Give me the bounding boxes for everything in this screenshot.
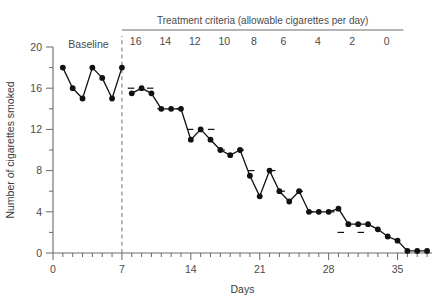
data-point bbox=[424, 248, 430, 254]
criteria-value-label: 10 bbox=[218, 35, 230, 47]
data-series-lines bbox=[63, 68, 427, 251]
data-point bbox=[188, 137, 194, 143]
criteria-label-group: 1614121086420 bbox=[130, 35, 390, 47]
data-point bbox=[109, 96, 115, 102]
x-tick-label: 35 bbox=[392, 263, 404, 275]
data-point bbox=[355, 221, 361, 227]
criteria-value-label: 14 bbox=[159, 35, 171, 47]
x-axis-tick-labels: 0714212835 bbox=[50, 263, 403, 275]
data-series-points bbox=[60, 65, 430, 254]
y-tick-label: 0 bbox=[36, 247, 42, 259]
data-point bbox=[89, 65, 95, 71]
x-tick-label: 14 bbox=[185, 263, 197, 275]
criteria-value-label: 2 bbox=[349, 35, 355, 47]
data-point bbox=[286, 199, 292, 205]
criteria-value-label: 12 bbox=[189, 35, 201, 47]
data-point bbox=[158, 106, 164, 112]
criteria-value-label: 8 bbox=[251, 35, 257, 47]
phase-header-group: Treatment criteria (allowable cigarettes… bbox=[122, 15, 404, 30]
data-point bbox=[395, 238, 401, 244]
data-point bbox=[119, 65, 125, 71]
data-point bbox=[80, 96, 86, 102]
data-point bbox=[198, 126, 204, 132]
data-point bbox=[277, 188, 283, 194]
x-tick-label: 21 bbox=[254, 263, 266, 275]
data-point bbox=[237, 147, 243, 153]
data-point bbox=[247, 173, 253, 179]
data-point bbox=[365, 221, 371, 227]
x-tick-label: 7 bbox=[119, 263, 125, 275]
x-tick-label: 0 bbox=[50, 263, 56, 275]
phase-header-label: Treatment criteria (allowable cigarettes… bbox=[157, 15, 368, 26]
data-point bbox=[178, 106, 184, 112]
y-tick-label: 12 bbox=[30, 123, 42, 135]
data-point bbox=[375, 226, 381, 232]
x-axis-ticks bbox=[53, 253, 427, 260]
data-point bbox=[227, 152, 233, 158]
y-tick-label: 20 bbox=[30, 41, 42, 53]
data-point bbox=[326, 209, 332, 215]
criteria-value-label: 6 bbox=[280, 35, 286, 47]
chart-figure: Treatment criteria (allowable cigarettes… bbox=[0, 0, 443, 300]
baseline-phase-label: Baseline bbox=[68, 38, 108, 50]
data-point bbox=[296, 188, 302, 194]
data-point bbox=[70, 85, 76, 91]
y-tick-label: 8 bbox=[36, 164, 42, 176]
data-point bbox=[267, 168, 273, 174]
data-point bbox=[60, 65, 66, 71]
data-point bbox=[149, 90, 155, 96]
y-axis-title: Number of cigarettes smoked bbox=[4, 81, 16, 218]
cigarette-reduction-line-chart: Treatment criteria (allowable cigarettes… bbox=[0, 0, 443, 300]
data-point bbox=[257, 193, 263, 199]
data-point bbox=[404, 248, 410, 254]
x-axis-title: Days bbox=[231, 283, 255, 295]
criteria-value-label: 0 bbox=[384, 35, 390, 47]
data-point bbox=[129, 90, 135, 96]
criteria-value-label: 16 bbox=[130, 35, 142, 47]
data-point bbox=[99, 75, 105, 81]
data-point bbox=[139, 85, 145, 91]
y-tick-label: 16 bbox=[30, 82, 42, 94]
axes-group: 0714212835 048121620 bbox=[30, 41, 432, 275]
y-axis-ticks bbox=[46, 47, 53, 253]
data-point bbox=[208, 137, 214, 143]
criteria-value-label: 4 bbox=[315, 35, 321, 47]
data-point bbox=[306, 209, 312, 215]
series-line-treatment bbox=[132, 88, 427, 251]
data-point bbox=[336, 206, 342, 212]
series-line-baseline bbox=[63, 68, 122, 99]
data-point bbox=[168, 106, 174, 112]
y-axis-tick-labels: 048121620 bbox=[30, 41, 42, 259]
data-point bbox=[217, 147, 223, 153]
x-tick-label: 28 bbox=[323, 263, 335, 275]
data-point bbox=[345, 221, 351, 227]
y-tick-label: 4 bbox=[36, 206, 42, 218]
data-point bbox=[316, 209, 322, 215]
data-point bbox=[385, 234, 391, 240]
data-point bbox=[414, 248, 420, 254]
